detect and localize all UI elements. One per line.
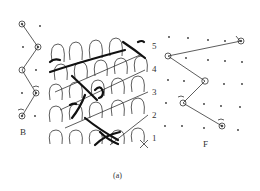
course-number-1: 1 — [152, 134, 157, 143]
back-bar-dot-grid — [21, 25, 41, 117]
front-bar-lapping-path — [165, 36, 244, 129]
front-bar-label: F — [203, 140, 208, 149]
course-4-loops — [54, 56, 147, 80]
fabric-loop-structure — [49, 38, 148, 148]
figure-caption: (a) — [113, 172, 122, 180]
course-number-2: 2 — [152, 111, 157, 120]
course-number-3: 3 — [152, 88, 157, 97]
back-bar-label: B — [20, 128, 26, 137]
lapping-diagram-figure: 5 4 3 2 1 B F (a) — [0, 0, 260, 191]
course-number-4: 4 — [152, 65, 157, 74]
course-number-5: 5 — [152, 42, 157, 51]
course-5-loops — [51, 38, 122, 62]
course-2-loops — [49, 98, 144, 122]
course-1-loops — [49, 128, 144, 144]
back-bar-lapping-path — [18, 21, 41, 119]
diagram-canvas — [0, 0, 260, 191]
